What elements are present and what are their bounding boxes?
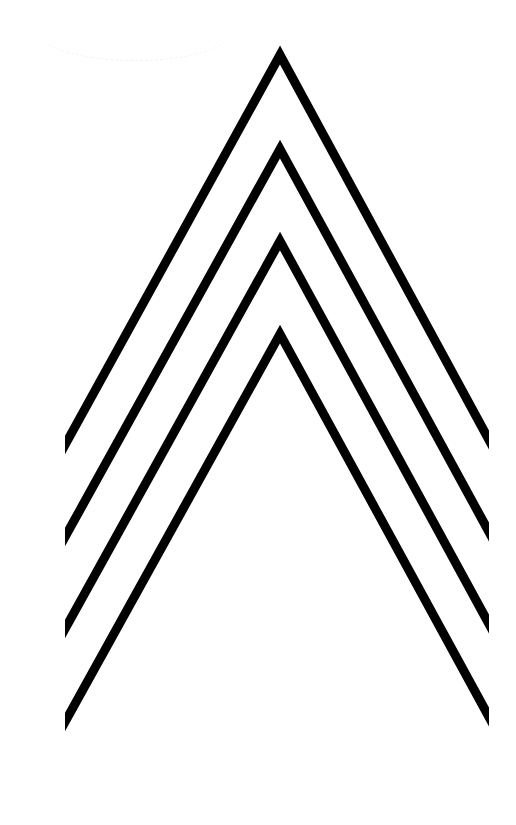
paper-smudge [40, 5, 230, 61]
chevron-1 [45, 55, 509, 481]
chevron-artwork [0, 0, 516, 825]
nested-chevrons-graphic [0, 0, 516, 825]
